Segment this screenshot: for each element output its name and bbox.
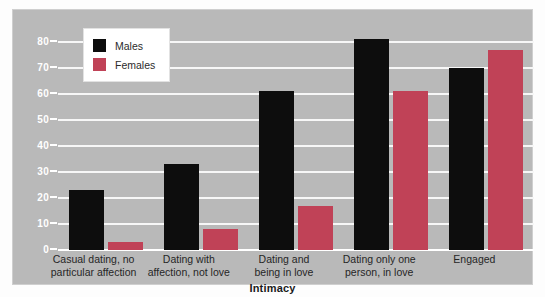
y-axis-tick-40: 40 <box>37 140 49 151</box>
bar-group <box>259 32 333 250</box>
bar-females-4 <box>488 50 523 250</box>
x-axis-category-label-4: Engaged <box>421 253 528 266</box>
bar-group <box>354 32 428 250</box>
y-axis-tickmark-70 <box>50 66 57 68</box>
bar-males-2 <box>259 91 294 250</box>
y-axis-tickmark-40 <box>50 144 57 146</box>
y-axis-tick-80: 80 <box>37 36 49 47</box>
x-axis-category-label-3: Dating only one person, in love <box>326 253 433 279</box>
y-axis-tick-10: 10 <box>37 218 49 229</box>
y-axis-tickmark-80 <box>50 40 57 42</box>
y-axis-tickmark-0 <box>50 248 57 250</box>
x-axis-title: Intimacy <box>13 282 532 294</box>
y-axis-tickmark-20 <box>50 196 57 198</box>
bar-males-3 <box>354 39 389 250</box>
x-axis-category-label-2: Dating and being in love <box>230 253 337 279</box>
y-axis-tick-20: 20 <box>37 192 49 203</box>
chart-legend: Males Females <box>83 28 170 82</box>
y-axis-tick-50: 50 <box>37 114 49 125</box>
bar-males-0 <box>69 190 104 250</box>
bar-females-0 <box>108 242 143 250</box>
bar-females-1 <box>203 229 238 250</box>
y-axis-tickmark-30 <box>50 170 57 172</box>
x-axis-category-label-1: Dating with affection, not love <box>135 253 242 279</box>
x-axis-category-label-0: Casual dating, no particular affection <box>40 253 147 279</box>
y-axis-tickmark-50 <box>50 118 57 120</box>
bar-females-3 <box>393 91 428 250</box>
bar-males-4 <box>449 68 484 250</box>
y-axis-tick-70: 70 <box>37 62 49 73</box>
legend-swatch-males-icon <box>93 39 106 52</box>
bar-group <box>449 32 523 250</box>
bar-males-1 <box>164 164 199 250</box>
y-axis-tickmark-10 <box>50 222 57 224</box>
bar-group <box>164 32 238 250</box>
legend-label-females: Females <box>115 59 155 71</box>
legend-item-males: Males <box>93 36 155 55</box>
bar-chart-figure: 01020304050607080 Casual dating, no part… <box>0 0 545 297</box>
legend-label-males: Males <box>115 40 143 52</box>
y-axis-tick-30: 30 <box>37 166 49 177</box>
y-axis-tick-60: 60 <box>37 88 49 99</box>
legend-swatch-females-icon <box>93 58 106 71</box>
y-axis-tickmark-60 <box>50 92 57 94</box>
bar-females-2 <box>298 206 333 250</box>
legend-item-females: Females <box>93 55 155 74</box>
chart-plot-panel: 01020304050607080 Casual dating, no part… <box>12 9 533 285</box>
